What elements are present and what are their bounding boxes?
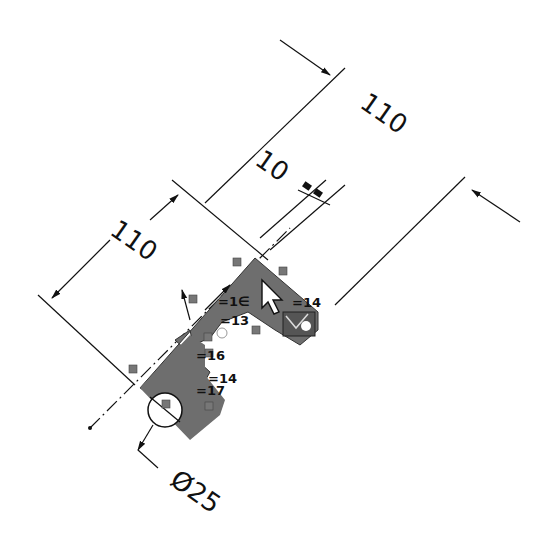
relation-label-2[interactable]: =1∈ [218, 294, 250, 309]
relation-label-3[interactable]: =13 [220, 313, 249, 328]
dimension-diameter-25[interactable]: Ø25 [138, 425, 226, 519]
sketch-canvas[interactable]: 110 110 10 Ø25 [0, 0, 551, 558]
dim-label-top-110[interactable]: 110 [355, 87, 413, 140]
relation-label-4[interactable]: =16 [196, 348, 225, 363]
sketch-cursor-icon [283, 312, 315, 336]
relation-label-1[interactable]: =14 [292, 295, 321, 310]
dim-label-offset-10[interactable]: 10 [250, 144, 294, 188]
dim-label-left-110[interactable]: 110 [105, 214, 163, 267]
dimension-offset-10[interactable]: 10 [250, 144, 345, 250]
relation-label-6[interactable]: =17 [196, 383, 225, 398]
centerline-endpoint[interactable] [88, 426, 92, 430]
axis-arrow-icon [182, 290, 190, 320]
dim-label-diameter-25[interactable]: Ø25 [165, 464, 226, 519]
coincident-glyph-icon [217, 328, 227, 338]
